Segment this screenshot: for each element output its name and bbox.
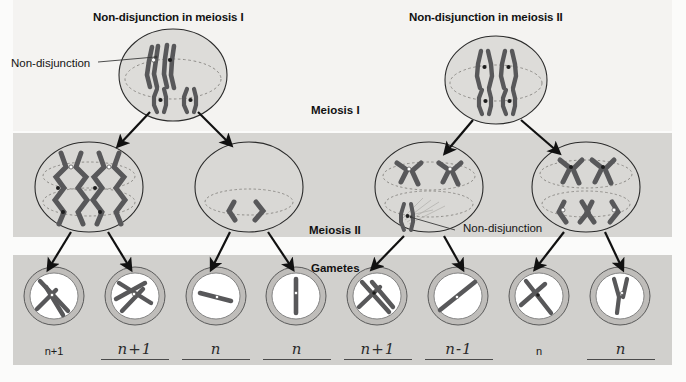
meiosis2-cell-4	[530, 140, 642, 235]
gamete-cell-6	[426, 265, 490, 327]
meiosis2-cell-1	[33, 140, 145, 235]
gamete-label-1-text: n+1	[45, 345, 64, 357]
gamete-cell-2	[103, 265, 167, 327]
gamete-label-7: n	[507, 345, 571, 359]
gamete-label-2: n+1	[101, 340, 169, 360]
callout-label-left: Non-disjunction	[11, 57, 90, 69]
gamete-label-2-text: n+1	[118, 340, 153, 358]
gamete-cell-1	[22, 265, 86, 327]
gamete-label-3: n	[182, 340, 250, 360]
parent-cell-right	[443, 34, 549, 126]
gamete-label-8-rule	[587, 359, 655, 360]
title-left: Non-disjunction in meiosis I	[93, 11, 244, 23]
gamete-label-1: n+1	[22, 345, 86, 359]
gamete-label-4-text: n	[292, 340, 303, 358]
meiosis2-cell-2	[193, 140, 305, 235]
gamete-label-5: n+1	[344, 340, 412, 360]
gamete-cell-4	[264, 265, 328, 327]
gamete-label-5-text: n+1	[361, 340, 396, 358]
parent-cell-left	[117, 27, 229, 124]
title-right: Non-disjunction in meiosis II	[409, 11, 563, 23]
gamete-cell-5	[345, 265, 409, 327]
gamete-label-8: n	[587, 340, 655, 360]
gamete-label-1-rule	[22, 358, 86, 359]
gamete-label-3-text: n	[211, 340, 222, 358]
gamete-label-3-rule	[182, 359, 250, 360]
gamete-cell-3	[184, 265, 248, 327]
gamete-label-2-rule	[101, 359, 169, 360]
gamete-label-5-rule	[344, 359, 412, 360]
stage-label-meiosis-one: Meiosis I	[311, 104, 360, 116]
figure-canvas: Non-disjunction in meiosis I Non-disjunc…	[0, 0, 686, 382]
gamete-label-8-text: n	[616, 340, 627, 358]
gamete-label-7-rule	[507, 358, 571, 359]
gamete-cell-7	[507, 265, 571, 327]
gamete-label-4: n	[263, 340, 331, 360]
gamete-cell-8	[588, 265, 652, 327]
gamete-label-6-rule	[425, 359, 493, 360]
gamete-label-6: n-1	[425, 340, 493, 360]
stage-label-meiosis-two: Meiosis II	[309, 224, 361, 236]
gamete-label-6-text: n-1	[445, 340, 472, 358]
meiosis2-cell-3	[373, 140, 485, 238]
gamete-label-4-rule	[263, 359, 331, 360]
gamete-label-7-text: n	[536, 345, 542, 357]
